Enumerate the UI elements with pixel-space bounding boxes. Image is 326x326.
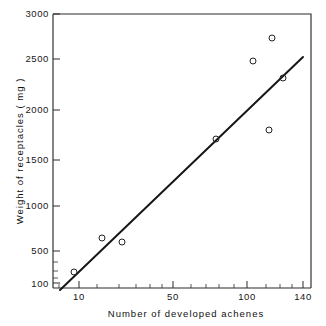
y-tick-label-2000: 2000: [25, 104, 49, 115]
fitted-regression-line: [60, 57, 303, 290]
data-point: [99, 235, 105, 241]
x-tick-label-140: 140: [294, 291, 312, 302]
y-axis-title: Weight of receptacles ( mg ): [14, 78, 25, 225]
data-points: [71, 35, 286, 275]
data-point: [119, 239, 125, 245]
scatter-plot-svg: 3000 2500 2000 1500 1000 500 100: [0, 0, 326, 326]
x-tick-labels: 10 50 100 140: [73, 291, 312, 302]
chart-figure: 3000 2500 2000 1500 1000 500 100: [0, 0, 326, 326]
frame-border: [53, 14, 311, 288]
x-tick-label-10: 10: [73, 291, 85, 302]
y-tick-label-1000: 1000: [25, 200, 49, 211]
y-tick-labels: 3000 2500 2000 1500 1000 500 100: [25, 8, 49, 289]
data-point: [71, 269, 77, 275]
data-point: [266, 127, 272, 133]
x-axis-minor-ticks: [59, 284, 292, 288]
x-tick-label-100: 100: [238, 291, 256, 302]
y-axis-ticks: [53, 14, 60, 283]
plot-frame: [53, 14, 311, 288]
data-point: [269, 35, 275, 41]
data-point: [250, 58, 256, 64]
y-tick-label-1500: 1500: [25, 154, 49, 165]
y-tick-label-3000: 3000: [25, 8, 49, 19]
x-axis-title: Number of developed achenes: [108, 308, 264, 319]
y-tick-label-100: 100: [31, 278, 49, 289]
y-tick-label-2500: 2500: [25, 53, 49, 64]
x-tick-label-50: 50: [167, 291, 179, 302]
y-tick-label-500: 500: [31, 245, 49, 256]
